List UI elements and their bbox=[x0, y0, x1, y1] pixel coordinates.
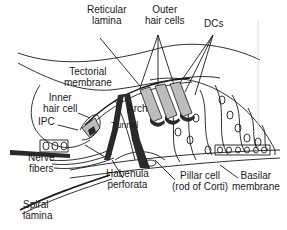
label-tunnel: Tunnel bbox=[111, 120, 138, 131]
label-spiral-lamina: Spiral lamina bbox=[23, 199, 52, 221]
tectorial-membrane-upper bbox=[18, 63, 220, 90]
scala-wall bbox=[18, 44, 260, 62]
label-habenula-perforata: Habenula perforata bbox=[106, 168, 149, 190]
label-arch: Arch bbox=[127, 103, 148, 114]
organ-of-corti-diagram: Reticular lamina Outer hair cells DCs Te… bbox=[0, 0, 287, 230]
label-tectorial-membrane: Tectorial membrane bbox=[64, 66, 112, 88]
label-dcs: DCs bbox=[204, 18, 223, 29]
label-inner-hair-cell: Inner hair cell bbox=[43, 92, 77, 114]
label-outer-hair-cells: Outer hair cells bbox=[145, 4, 184, 26]
label-pillar-cell: Pillar cell (rod of Corti) bbox=[172, 170, 228, 192]
label-nerve-fibers: Nerve fibers bbox=[28, 152, 55, 174]
label-basilar-membrane: Basilar membrane bbox=[232, 170, 280, 192]
label-ipc: IPC bbox=[38, 116, 55, 127]
label-reticular-lamina: Reticular lamina bbox=[87, 4, 126, 26]
diagram-drawing bbox=[0, 0, 287, 230]
